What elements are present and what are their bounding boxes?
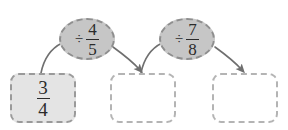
numerator: 4 — [88, 21, 97, 38]
denominator: 8 — [188, 41, 197, 58]
denominator: 5 — [88, 41, 97, 58]
connector-op2-to-result2 — [215, 47, 242, 70]
connector-op1-to-result1 — [113, 47, 140, 70]
node-result-1-blank[interactable] — [110, 73, 176, 123]
result-2-value — [245, 98, 246, 99]
numerator: 3 — [38, 78, 48, 97]
connector-result1-to-op2 — [141, 43, 162, 73]
fraction-seven-eighths: 7 8 — [186, 21, 199, 58]
divide-icon: ÷ — [175, 32, 183, 47]
node-operation-divide-four-fifths[interactable]: ÷ 4 5 — [59, 18, 115, 60]
node-start-value[interactable]: 3 4 — [10, 73, 76, 123]
fraction-flow-diagram: 3 4 ÷ 4 5 ÷ 7 8 — [0, 0, 288, 130]
result-1-value — [143, 98, 144, 99]
divide-icon: ÷ — [75, 32, 83, 47]
operation-2-expression: ÷ 7 8 — [175, 21, 199, 58]
operation-1-expression: ÷ 4 5 — [75, 21, 99, 58]
fraction-four-fifths: 4 5 — [86, 21, 99, 58]
numerator: 7 — [188, 21, 197, 38]
fraction-three-fourths: 3 4 — [37, 78, 50, 119]
node-result-2-blank[interactable] — [212, 73, 278, 123]
denominator: 4 — [38, 100, 48, 119]
connector-start-to-op1 — [41, 43, 62, 73]
start-value-expression: 3 4 — [37, 78, 50, 119]
node-operation-divide-seven-eighths[interactable]: ÷ 7 8 — [159, 18, 215, 60]
